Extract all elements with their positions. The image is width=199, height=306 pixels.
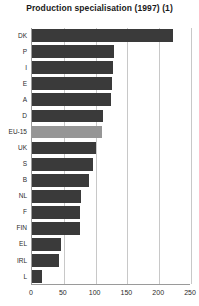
y-axis-labels: DKPIEADEU-15UKSBNLFFINELIRLL <box>0 28 29 285</box>
y-axis-tick-e: E <box>23 80 27 88</box>
y-axis-tick-p: P <box>23 48 27 56</box>
bar-series <box>32 28 190 284</box>
bar-row <box>32 158 190 171</box>
x-axis-labels: 050100150200250 <box>0 288 199 302</box>
y-axis-tick-uk: UK <box>18 144 27 152</box>
bar-row <box>32 174 190 187</box>
gridline <box>191 28 192 284</box>
bar-row <box>32 222 190 235</box>
bar-row <box>32 93 190 106</box>
chart-container: Production specialisation (1997) (1) DKP… <box>0 0 199 306</box>
bar-row <box>32 238 190 251</box>
y-axis-tick-a: A <box>23 96 27 104</box>
bar-row <box>32 254 190 267</box>
y-axis-tick-l: L <box>23 273 27 281</box>
bar-e <box>32 77 112 90</box>
x-axis-tick-100: 100 <box>89 288 101 297</box>
bar-dk <box>32 29 173 42</box>
x-axis-tick-250: 250 <box>184 288 196 297</box>
bar-row <box>32 110 190 123</box>
chart-title: Production specialisation (1997) (1) <box>0 3 199 13</box>
bar-row <box>32 126 190 139</box>
bar-el <box>32 238 61 251</box>
bar-a <box>32 93 111 106</box>
bar-row <box>32 61 190 74</box>
bar-row <box>32 45 190 58</box>
y-axis-tick-s: S <box>23 160 27 168</box>
plot-area <box>31 28 190 285</box>
y-axis-tick-eu-15: EU-15 <box>9 128 27 136</box>
bar-eu-15 <box>32 126 102 139</box>
bar-row <box>32 206 190 219</box>
y-axis-tick-d: D <box>22 112 27 120</box>
bar-l <box>32 270 42 283</box>
bar-nl <box>32 190 81 203</box>
bar-s <box>32 158 93 171</box>
y-axis-tick-nl: NL <box>19 192 27 200</box>
y-axis-tick-f: F <box>23 208 27 216</box>
y-axis-tick-b: B <box>23 176 27 184</box>
bar-row <box>32 270 190 283</box>
bar-d <box>32 110 103 123</box>
bar-p <box>32 45 114 58</box>
bar-fin <box>32 222 80 235</box>
x-axis-tick-50: 50 <box>59 288 67 297</box>
x-axis-tick-200: 200 <box>152 288 164 297</box>
bar-row <box>32 190 190 203</box>
bar-row <box>32 29 190 42</box>
y-axis-tick-irl: IRL <box>17 257 27 265</box>
bar-row <box>32 77 190 90</box>
y-axis-tick-dk: DK <box>18 32 27 40</box>
bar-b <box>32 174 89 187</box>
x-axis-tick-0: 0 <box>29 288 33 297</box>
y-axis-tick-i: I <box>25 64 27 72</box>
bar-i <box>32 61 113 74</box>
bar-row <box>32 142 190 155</box>
y-axis-tick-fin: FIN <box>17 224 27 232</box>
bar-irl <box>32 254 59 267</box>
x-axis-tick-150: 150 <box>121 288 133 297</box>
bar-f <box>32 206 80 219</box>
y-axis-tick-el: EL <box>19 240 27 248</box>
bar-uk <box>32 142 96 155</box>
